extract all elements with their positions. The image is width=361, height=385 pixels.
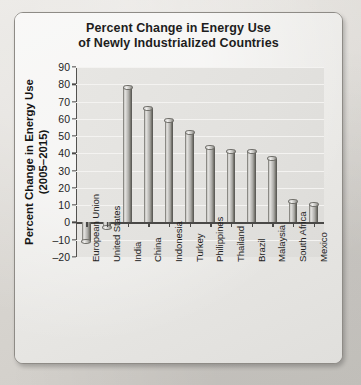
y-tick-mark (72, 84, 76, 85)
y-tick-label: 20 (58, 182, 70, 194)
gridline (76, 102, 324, 103)
x-tick-label: South Africa (297, 211, 308, 262)
x-tick-mark (190, 222, 191, 227)
bar-body (165, 121, 174, 223)
bar-cap (226, 149, 236, 154)
y-tick-label: 50 (58, 130, 70, 142)
bar-body (185, 133, 194, 223)
y-tick-mark (72, 170, 76, 171)
x-tick-mark (252, 222, 253, 227)
gridline (76, 84, 324, 85)
bar-cap (247, 149, 257, 154)
bar-body (289, 202, 298, 223)
bar (247, 152, 256, 223)
gridline (76, 136, 324, 137)
y-tick-label: 30 (58, 165, 70, 177)
x-tick-label: China (152, 237, 163, 262)
y-tick-mark (72, 66, 76, 67)
x-tick-label: European Union (90, 194, 101, 262)
x-tick-label: Philippines (214, 217, 225, 262)
x-tick-label: Turkey (194, 234, 205, 262)
x-tick-mark (128, 222, 129, 227)
y-tick-mark (72, 135, 76, 136)
x-tick-mark (148, 222, 149, 227)
bar-cap (164, 118, 174, 123)
y-tick-label: 0 (64, 216, 70, 228)
y-tick-mark (72, 205, 76, 206)
y-tick-mark (72, 239, 76, 240)
x-tick-label: India (132, 242, 143, 262)
x-tick-mark (169, 222, 170, 227)
bar-body (268, 159, 277, 223)
y-axis-label: Percent Change in Energy Use (2005–2015) (23, 67, 51, 257)
x-tick-mark (107, 222, 108, 227)
y-tick-mark (72, 187, 76, 188)
bar (289, 202, 298, 223)
chart-card: Percent Change in Energy Use of Newly In… (14, 12, 343, 364)
y-tick-label: 70 (58, 96, 70, 108)
plot-area: 9080706050403020100–10–20 European Union… (76, 67, 324, 257)
x-tick-mark (314, 222, 315, 227)
bar-cap (123, 85, 133, 90)
x-tick-mark (86, 222, 87, 227)
y-axis-label-line-1: Percent Change in Energy Use (23, 79, 35, 245)
x-tick-label: United States (111, 206, 122, 262)
x-tick-label: Brazil (256, 239, 267, 262)
y-tick-mark (72, 101, 76, 102)
bar (227, 152, 236, 223)
x-tick-label: Malaysia (276, 225, 287, 262)
bar-body (247, 152, 256, 223)
bar (309, 205, 318, 222)
bar-cap (267, 156, 277, 161)
chart-title: Percent Change in Energy Use of Newly In… (15, 21, 342, 51)
x-tick-mark (272, 222, 273, 227)
x-tick-mark (210, 222, 211, 227)
bar (123, 88, 132, 223)
bar (165, 121, 174, 223)
bar-body (144, 108, 153, 222)
chart-title-line-1: Percent Change in Energy Use (86, 21, 271, 35)
gridline (76, 188, 324, 189)
y-tick-mark (72, 153, 76, 154)
gridline (76, 119, 324, 120)
bar-cap (185, 130, 195, 135)
y-tick-label: –10 (52, 234, 70, 246)
bar (144, 108, 153, 222)
bar-body (123, 88, 132, 223)
bar-body (206, 148, 215, 222)
x-tick-label: Indonesia (173, 221, 184, 262)
bar-body (227, 152, 236, 223)
bar-cap (143, 106, 153, 111)
x-tick-mark (293, 222, 294, 227)
x-tick-mark (231, 222, 232, 227)
y-tick-mark (72, 256, 76, 257)
x-tick-label: Thailand (235, 226, 246, 262)
y-tick-label: –20 (52, 251, 70, 263)
bar-body (309, 205, 318, 222)
y-tick-label: 60 (58, 113, 70, 125)
bar (206, 148, 215, 222)
bar (268, 159, 277, 223)
y-tick-label: 10 (58, 199, 70, 211)
gridline (76, 153, 324, 154)
y-tick-label: 90 (58, 61, 70, 73)
gridline (76, 67, 324, 68)
y-tick-label: 80 (58, 78, 70, 90)
y-tick-mark (72, 222, 76, 223)
x-tick-label: Mexico (318, 232, 329, 262)
y-tick-mark (72, 118, 76, 119)
chart-title-line-2: of Newly Industrialized Countries (15, 36, 342, 51)
bar (185, 133, 194, 223)
y-axis-label-line-2: (2005–2015) (37, 67, 51, 257)
y-tick-label: 40 (58, 147, 70, 159)
gridline (76, 171, 324, 172)
bar-cap (288, 199, 298, 204)
